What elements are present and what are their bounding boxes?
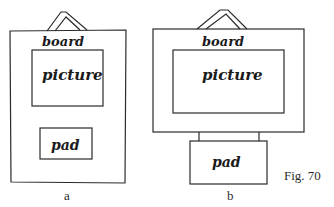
panel-a: board picture pad a xyxy=(10,12,126,203)
panel-label-a: a xyxy=(64,188,70,203)
panel-b: board picture pad b xyxy=(153,10,304,203)
board-label-b: board xyxy=(202,34,244,49)
pad-label-a: pad xyxy=(51,137,80,153)
picture-label-b: picture xyxy=(202,66,263,84)
hanger-b xyxy=(197,10,247,29)
board-label-a: board xyxy=(42,34,84,49)
figure-caption: Fig. 70 xyxy=(284,168,321,183)
hanger-a xyxy=(47,12,87,31)
figure-70-diagram: board picture pad a board picture pad b … xyxy=(0,0,334,207)
picture-label-a: picture xyxy=(42,66,103,84)
panel-label-b: b xyxy=(227,188,234,203)
pad-label-b: pad xyxy=(212,154,241,170)
